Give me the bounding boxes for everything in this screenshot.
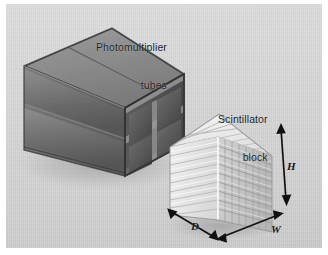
figure-scene: Photomultiplier tubes Scintillator block… xyxy=(6,4,322,248)
scintillator-label-line2: block xyxy=(218,151,268,164)
scintillator-label-line1: Scintillator xyxy=(218,113,268,126)
figure-panel: Photomultiplier tubes Scintillator block… xyxy=(6,4,322,248)
pmt-label: Photomultiplier tubes xyxy=(96,16,167,116)
figure-pet-detector: Photomultiplier tubes Scintillator block… xyxy=(0,0,328,255)
scintillator-label: Scintillator block xyxy=(218,88,268,188)
dimension-label-depth: D xyxy=(191,220,199,232)
pmt-label-line1: Photomultiplier xyxy=(96,41,167,54)
dimension-label-height: H xyxy=(287,160,296,172)
pmt-label-line2: tubes xyxy=(96,79,167,92)
dimension-label-width: W xyxy=(271,223,281,235)
